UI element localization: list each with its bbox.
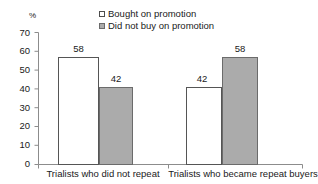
- x-category-label-1: Trialists who became repeat buyers: [168, 168, 318, 179]
- y-tick-label-70: 70: [8, 28, 30, 38]
- white-square-swatch-icon: [99, 11, 105, 17]
- legend-label-0: Bought on promotion: [108, 9, 196, 19]
- bar-chart: % 70 60 50 40 30 20 10 0 Bought on promo…: [0, 0, 318, 184]
- y-tick-label-10: 10: [8, 140, 30, 150]
- legend-label-1: Did not buy on promotion: [108, 21, 214, 31]
- y-tick-label-20: 20: [8, 121, 30, 131]
- bar-value-group0-series1: 42: [99, 74, 133, 84]
- bar-group1-series1: [222, 57, 258, 165]
- x-category-label-0: Trialists who did not repeat: [33, 168, 173, 179]
- y-tick-label-40: 40: [8, 84, 30, 94]
- y-tick-label-60: 60: [8, 46, 30, 56]
- gray-square-swatch-icon: [99, 23, 105, 29]
- y-axis-unit-label: %: [29, 11, 36, 20]
- bar-group0-series1: [99, 87, 133, 166]
- y-tick-label-50: 50: [8, 65, 30, 75]
- legend-entry-did-not-buy-on-promotion: Did not buy on promotion: [99, 20, 214, 31]
- bar-value-group1-series0: 42: [184, 74, 220, 84]
- bar-value-group0-series0: 58: [58, 44, 99, 54]
- y-tick-label-30: 30: [8, 103, 30, 113]
- bar-group1-series0: [186, 87, 222, 166]
- bar-group0-series0: [58, 57, 99, 165]
- legend: Bought on promotion Did not buy on promo…: [99, 8, 214, 31]
- y-tick-label-0: 0: [8, 159, 30, 169]
- legend-entry-bought-on-promotion: Bought on promotion: [99, 8, 214, 19]
- bar-value-group1-series1: 58: [222, 44, 258, 54]
